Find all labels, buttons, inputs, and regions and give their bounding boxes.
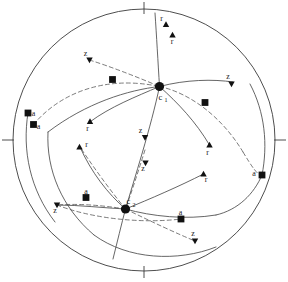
primitive-circle-layer [13, 9, 275, 271]
triangle-up-marker-icon [76, 144, 82, 150]
pole-label-z-bot-right: z [191, 229, 195, 238]
pole-label-z-bot-left: z [53, 206, 57, 215]
square-marker-icon [202, 99, 209, 106]
center-label-c1: c [159, 92, 163, 102]
arc-c2-up-right-r [126, 174, 204, 209]
pole-z-bot-left: z [53, 202, 60, 215]
center-subscript-c1: 1 [165, 97, 168, 103]
pole-label-a-left-upper: a [32, 109, 36, 118]
arc-c2-down-axis [113, 209, 126, 259]
stereographic-projection-figure: rrzzaarrzzrraazaz c1c2 [0, 0, 288, 282]
pole-label-z-center-low: z [141, 164, 145, 173]
pole-label-a-bot-right: a [179, 208, 183, 217]
pole-z-center-low: z [141, 160, 148, 172]
pole-z-bot-right: z [191, 229, 198, 244]
tick-marks-layer [2, 2, 286, 278]
square-marker-icon [109, 76, 116, 83]
arc-c1-down-right-r [160, 87, 210, 146]
stereographic-projection-canvas: rrzzaarrzzrraazaz c1c2 [0, 0, 288, 282]
pole-label-r-top: r [160, 14, 163, 23]
pole-label-f-top: r [171, 37, 174, 46]
triangle-down-marker-icon [192, 238, 198, 244]
pole-a-bot-left: a [83, 187, 90, 201]
pole-r-top: r [160, 14, 169, 27]
square-marker-icon [25, 110, 32, 117]
pole-label-a-right: a [252, 169, 256, 178]
pole-z-center-up: z [139, 126, 148, 141]
arc-c1-down-left-r [91, 87, 160, 122]
pole-label-a-bot-left: a [84, 187, 88, 196]
arc-c1-east-z [160, 80, 234, 86]
center-dot-c2 [121, 204, 130, 213]
pole-label-r-mid-left2: r [85, 140, 88, 149]
arc-c1-c2-axis [126, 87, 160, 210]
pole-a-left-lower: a [30, 121, 41, 130]
pole-a-bot-right: a [178, 208, 185, 222]
pole-f-top: r [169, 32, 175, 46]
pole-r-mid-left2: r [76, 140, 88, 150]
center-label-c2: c [127, 196, 131, 206]
pole-label-r-right-low: r [205, 175, 208, 184]
pole-r-right-low: r [200, 171, 207, 184]
pole-label-r-mid-left: r [86, 124, 89, 133]
pole-label-z-center-up: z [139, 126, 143, 135]
pole-label-r-right-up: r [206, 148, 209, 157]
arc-right-a-up [250, 84, 265, 175]
pole-r-right-up: r [206, 142, 213, 157]
pole-label-z-upper-right: z [226, 72, 230, 81]
primitive-circle [13, 9, 275, 271]
pole-a-right: a [252, 169, 265, 179]
triangle-down-marker-icon [228, 81, 234, 87]
pole-label-z-upper-left: z [84, 49, 88, 58]
arc-big-lower-right [94, 235, 216, 256]
dash-c2-right-lower [126, 209, 196, 241]
dash-upper-right [160, 87, 244, 153]
dash-lower-arc [57, 205, 181, 221]
pole-z-upper-right: z [226, 72, 234, 87]
pole-sq-upper-mid [109, 76, 116, 83]
pole-markers-layer: rrzzaarrzzrraazaz [25, 14, 266, 244]
square-marker-icon [259, 172, 266, 179]
dash-z-upperleft [90, 60, 160, 87]
pole-label-a-left-lower: a [37, 122, 41, 131]
center-subscript-c2: 2 [133, 202, 136, 208]
triangle-up-marker-icon [163, 21, 169, 27]
pole-sq-upper-rt [202, 99, 209, 106]
pole-a-left-upper: a [25, 109, 36, 118]
triangle-down-marker-icon [142, 135, 148, 141]
arc-c1-vertical-upper [155, 13, 160, 87]
center-dot-c1 [155, 82, 164, 91]
arc-c2-east-a [126, 209, 217, 217]
